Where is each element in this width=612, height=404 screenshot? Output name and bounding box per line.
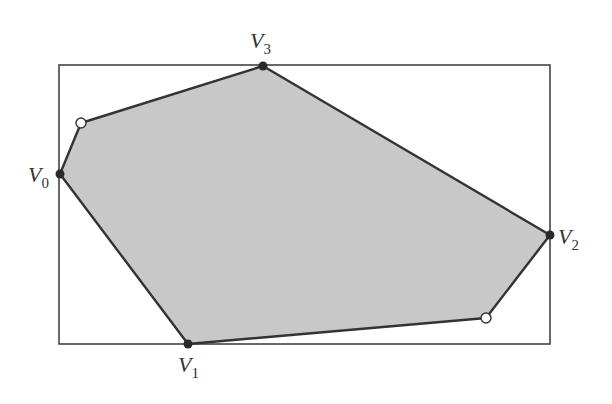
vertex-label-v2: V2 bbox=[558, 224, 579, 253]
vertex-marker-v0 bbox=[56, 170, 65, 179]
open-vertex-marker bbox=[481, 313, 491, 323]
vertex-label-v0: V0 bbox=[28, 162, 49, 191]
open-vertex-marker bbox=[76, 118, 86, 128]
vertex-marker-v2 bbox=[546, 231, 555, 240]
convex-polygon-diagram: V0V1V2V3 bbox=[0, 0, 612, 404]
vertex-label-v3: V3 bbox=[250, 28, 271, 57]
vertex-marker-v1 bbox=[184, 340, 193, 349]
shaded-polygon bbox=[60, 66, 550, 344]
vertex-marker-v3 bbox=[259, 62, 268, 71]
vertex-label-v1: V1 bbox=[178, 352, 199, 381]
